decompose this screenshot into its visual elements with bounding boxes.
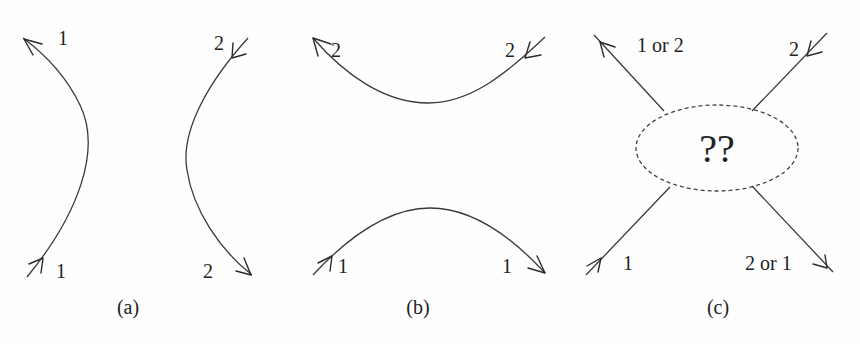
panel-b-bottom-right-label: 1	[502, 255, 512, 277]
figure-canvas: 1 1 2 2 (a) 2 2 1 1 (b) ??	[0, 0, 860, 344]
arrow-head-icon	[807, 41, 822, 56]
panel-a-left-bottom-label: 1	[56, 260, 66, 282]
panel-b-top-left-label: 2	[331, 39, 341, 61]
panel-b: 2 2 1 1 (b)	[313, 37, 545, 319]
panel-b-bottom-left-label: 1	[338, 255, 348, 277]
panel-a-left-top-label: 1	[58, 27, 68, 49]
panel-a: 1 1 2 2 (a)	[23, 27, 252, 319]
panel-c-top-right-label: 2	[789, 38, 799, 60]
arrow-head-icon	[232, 43, 246, 58]
panel-c-bottom-right-label: 2 or 1	[745, 252, 792, 274]
arrow-head-icon	[525, 42, 541, 58]
panel-a-right-bottom-label: 2	[203, 260, 213, 282]
panel-c-top-left-label: 1 or 2	[637, 34, 684, 56]
arrow-head-icon	[587, 258, 601, 272]
panel-c-caption: (c)	[707, 296, 729, 319]
panel-b-caption: (b)	[406, 296, 429, 319]
panel-a-right-top-label: 2	[214, 32, 224, 54]
panel-a-left-curve	[23, 38, 88, 277]
panel-a-right-curve	[186, 38, 252, 275]
unknown-interaction-label: ??	[699, 126, 735, 171]
panel-b-top-right-label: 2	[505, 39, 515, 61]
panel-c-bottom-left-label: 1	[623, 252, 633, 274]
panel-a-caption: (a)	[117, 296, 139, 319]
arrow-head-icon	[813, 255, 827, 268]
diagram-svg: 1 1 2 2 (a) 2 2 1 1 (b) ??	[0, 0, 860, 344]
panel-c: ?? 1 or 2 2 1 2 or 1 (c)	[586, 33, 833, 319]
